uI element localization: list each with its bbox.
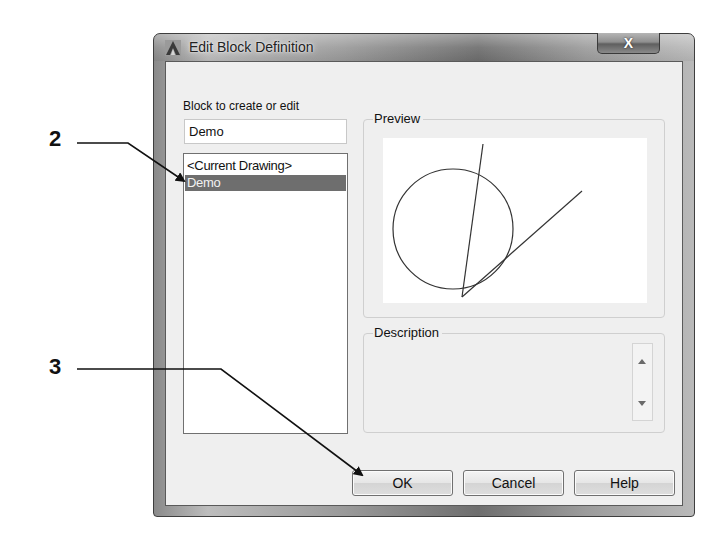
callout-arrow-3 [77, 369, 362, 475]
callout-arrow-2 [77, 143, 184, 181]
callout-arrows [0, 0, 723, 533]
